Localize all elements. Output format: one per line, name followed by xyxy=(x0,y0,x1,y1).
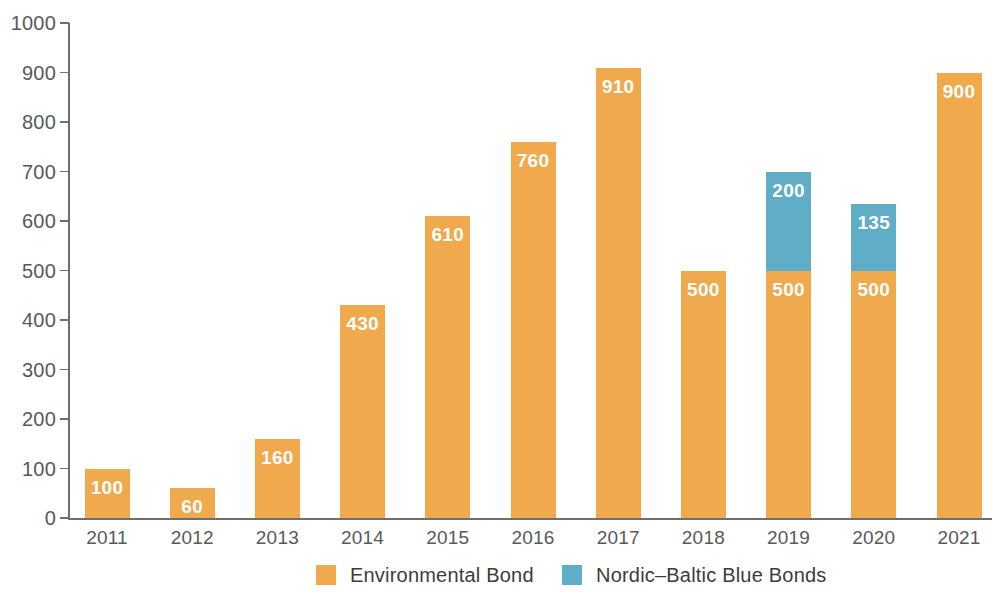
bar-value-label: 500 xyxy=(681,280,726,299)
plot-area: 01002003004005006007008009001000 1006016… xyxy=(0,0,992,592)
y-tick-mark xyxy=(60,121,69,123)
chart-legend: Environmental BondNordic–Baltic Blue Bon… xyxy=(0,558,992,592)
bar-group[interactable]: 900 xyxy=(937,73,982,519)
bar-segment-environmental[interactable] xyxy=(511,142,556,518)
y-tick-mark xyxy=(60,72,69,74)
x-tick-label: 2018 xyxy=(661,528,745,547)
y-tick-mark xyxy=(60,418,69,420)
x-tick-label: 2021 xyxy=(917,528,992,547)
bar-group[interactable]: 100 xyxy=(85,469,130,519)
y-tick-mark xyxy=(60,319,69,321)
bar-value-label: 910 xyxy=(596,77,641,96)
bar-group[interactable]: 60 xyxy=(170,488,215,518)
y-tick-label: 600 xyxy=(22,211,56,231)
y-tick-label: 900 xyxy=(22,63,56,83)
y-tick-mark xyxy=(60,22,69,24)
y-tick-mark xyxy=(60,468,69,470)
bar-group[interactable]: 160 xyxy=(255,439,300,518)
bar-segment-environmental[interactable] xyxy=(425,216,470,518)
y-tick-mark xyxy=(60,171,69,173)
x-axis-line xyxy=(68,518,992,520)
bar-group[interactable]: 430 xyxy=(340,305,385,518)
legend-item[interactable]: Environmental Bond xyxy=(316,558,534,592)
bar-value-label: 100 xyxy=(85,478,130,497)
bar-value-label: 760 xyxy=(511,151,556,170)
x-tick-label: 2012 xyxy=(150,528,234,547)
bar-group[interactable]: 910 xyxy=(596,68,641,518)
y-tick-mark xyxy=(60,270,69,272)
y-tick-mark xyxy=(60,369,69,371)
x-tick-label: 2016 xyxy=(491,528,575,547)
bar-group[interactable]: 760 xyxy=(511,142,556,518)
bar-value-label: 430 xyxy=(340,314,385,333)
legend-item[interactable]: Nordic–Baltic Blue Bonds xyxy=(562,558,826,592)
legend-label: Environmental Bond xyxy=(350,565,534,585)
bar-value-label: 500 xyxy=(851,280,896,299)
y-tick-label: 400 xyxy=(22,310,56,330)
bar-value-label: 200 xyxy=(766,181,811,200)
bar-value-label: 610 xyxy=(425,225,470,244)
bar-group[interactable]: 500135 xyxy=(851,204,896,518)
bar-value-label: 160 xyxy=(255,448,300,467)
bar-segment-environmental[interactable] xyxy=(681,271,726,519)
y-tick-label: 1000 xyxy=(11,13,56,33)
legend-label: Nordic–Baltic Blue Bonds xyxy=(596,565,826,585)
bar-segment-environmental[interactable] xyxy=(340,305,385,518)
y-tick-label: 300 xyxy=(22,360,56,380)
x-tick-label: 2011 xyxy=(65,528,149,547)
y-tick-label: 800 xyxy=(22,112,56,132)
bar-value-label: 500 xyxy=(766,280,811,299)
bar-segment-environmental[interactable] xyxy=(596,68,641,518)
y-tick-mark xyxy=(60,517,69,519)
x-tick-label: 2017 xyxy=(576,528,660,547)
x-tick-label: 2013 xyxy=(235,528,319,547)
x-tick-label: 2015 xyxy=(406,528,490,547)
stacked-bar-chart: 01002003004005006007008009001000 1006016… xyxy=(0,0,992,592)
y-tick-label: 700 xyxy=(22,162,56,182)
legend-swatch-icon xyxy=(316,565,336,585)
bar-segment-environmental[interactable] xyxy=(766,271,811,519)
bar-group[interactable]: 500 xyxy=(681,271,726,519)
x-tick-label: 2019 xyxy=(747,528,831,547)
x-tick-label: 2014 xyxy=(321,528,405,547)
bar-segment-environmental[interactable] xyxy=(937,73,982,519)
legend-swatch-icon xyxy=(562,565,582,585)
y-tick-label: 500 xyxy=(22,261,56,281)
bar-group[interactable]: 500200 xyxy=(766,172,811,519)
x-tick-label: 2020 xyxy=(832,528,916,547)
bar-group[interactable]: 610 xyxy=(425,216,470,518)
y-tick-label: 200 xyxy=(22,409,56,429)
bar-value-label: 900 xyxy=(937,82,982,101)
bar-value-label: 60 xyxy=(170,497,215,516)
bar-value-label: 135 xyxy=(851,213,896,232)
y-tick-label: 0 xyxy=(45,508,56,528)
y-tick-label: 100 xyxy=(22,459,56,479)
y-tick-mark xyxy=(60,220,69,222)
bar-segment-environmental[interactable] xyxy=(851,271,896,519)
